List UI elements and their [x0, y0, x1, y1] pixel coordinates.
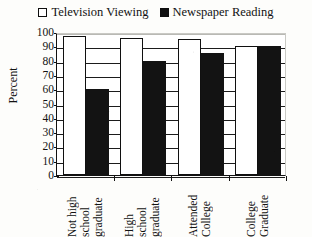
x-tick-mark	[229, 176, 230, 181]
y-tick-label-60: 60	[28, 84, 54, 96]
bar-group	[172, 34, 230, 175]
bar-group	[57, 34, 115, 175]
y-tick-label-50: 50	[28, 99, 54, 111]
y-tick-label-80: 80	[28, 56, 54, 68]
bar-newspaper-reading	[201, 53, 224, 175]
plot-area	[56, 33, 286, 176]
y-tick-label-0: 0	[28, 170, 54, 182]
y-tick-label-10: 10	[28, 156, 54, 168]
legend-entry-newspaper-reading: Newspaper Reading	[160, 6, 274, 19]
x-axis-label: Highschoolgraduate	[114, 182, 172, 237]
x-tick-mark	[171, 176, 172, 181]
x-axis-label: CollegeGraduate	[229, 182, 287, 237]
legend-label-newspaper-reading: Newspaper Reading	[173, 6, 274, 19]
y-axis-title: Percent	[6, 51, 21, 121]
x-axis-label-line: school	[79, 182, 91, 237]
x-axis-label-line: College	[200, 182, 212, 237]
x-axis-label: Not highschoolgraduate	[56, 182, 114, 237]
bar-chart-figure: Television Viewing Newspaper Reading Per…	[0, 0, 312, 237]
x-axis-label-line: graduate	[92, 182, 104, 237]
y-tick-label-90: 90	[28, 41, 54, 53]
x-axis-labels: Not highschoolgraduateHighschoolgraduate…	[56, 182, 286, 237]
x-axis-label-line: school	[136, 182, 148, 237]
x-tick-mark	[286, 176, 287, 181]
y-axis-ticks: 0102030405060708090100	[22, 33, 54, 176]
bar-newspaper-reading	[143, 61, 166, 175]
bar-group	[230, 34, 288, 175]
x-axis-label-line: College	[245, 182, 257, 237]
y-tick-label-70: 70	[28, 70, 54, 82]
bar-television-viewing	[178, 39, 201, 175]
x-axis-label-line: High	[123, 182, 135, 237]
y-tick-label-20: 20	[28, 141, 54, 153]
x-axis-label-line: Attended	[187, 182, 199, 237]
x-tick-mark	[114, 176, 115, 181]
bar-newspaper-reading	[86, 89, 109, 175]
legend-entry-television-viewing: Television Viewing	[38, 6, 148, 19]
bar-television-viewing	[120, 38, 143, 175]
bar-group	[115, 34, 173, 175]
x-axis-label-line: Not high	[66, 182, 78, 237]
filled-square-icon	[160, 8, 169, 17]
x-axis-label-line: Graduate	[258, 182, 270, 237]
bar-television-viewing	[63, 36, 86, 175]
y-tick-label-30: 30	[28, 127, 54, 139]
x-axis-label-line: graduate	[149, 182, 161, 237]
x-axis-label: AttendedCollege	[171, 182, 229, 237]
y-tick-label-100: 100	[28, 27, 54, 39]
y-tick-label-40: 40	[28, 113, 54, 125]
open-square-icon	[38, 8, 47, 17]
chart-legend: Television Viewing Newspaper Reading	[0, 3, 312, 21]
bar-newspaper-reading	[258, 46, 281, 175]
bar-television-viewing	[235, 46, 258, 175]
legend-label-television-viewing: Television Viewing	[51, 6, 148, 19]
